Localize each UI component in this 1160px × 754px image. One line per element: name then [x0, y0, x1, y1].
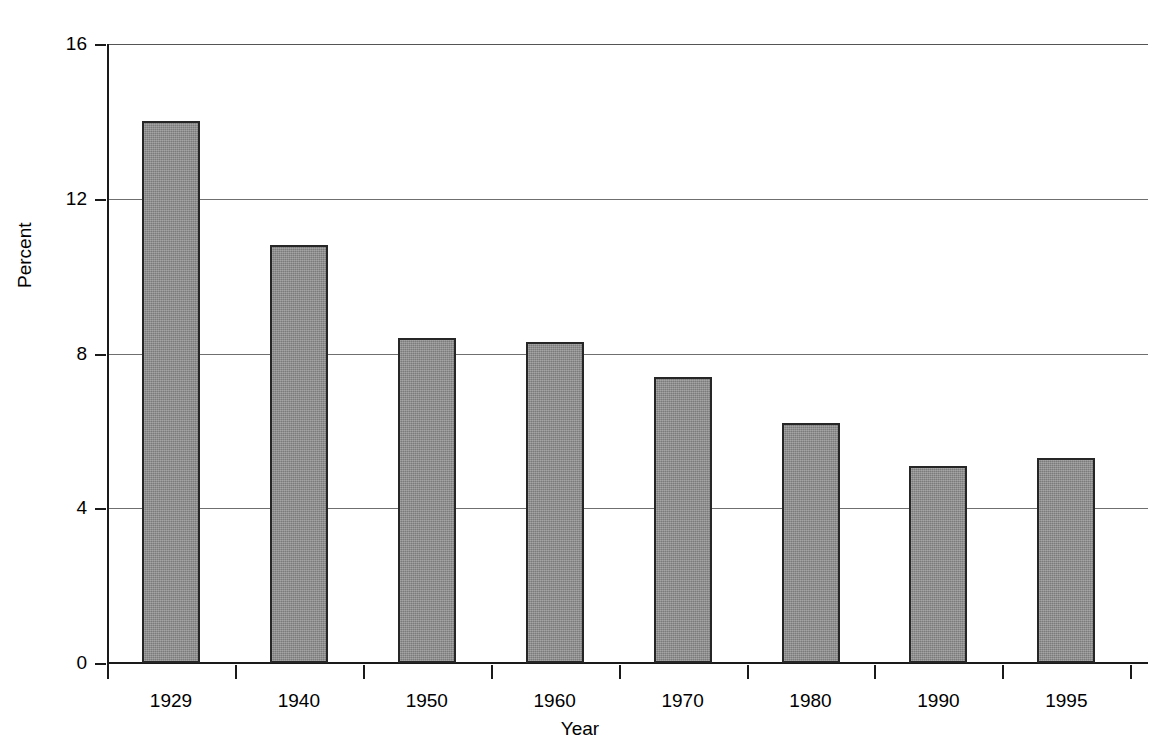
- x-tick-mark: [874, 665, 876, 679]
- y-tick-label: 4: [27, 498, 87, 517]
- bar-1990: [909, 466, 967, 663]
- x-tick-label: 1950: [367, 691, 487, 710]
- y-tick-mark-16: [95, 44, 106, 46]
- bar-1980: [782, 423, 840, 663]
- chart-figure: 0481216 19291940195019601970198019901995…: [0, 0, 1160, 754]
- plot-area: [107, 44, 1145, 663]
- x-tick-mark: [363, 665, 365, 679]
- x-tick-mark: [491, 665, 493, 679]
- y-axis-title: Percent: [14, 223, 36, 288]
- y-tick-mark-4: [95, 508, 106, 510]
- bar-1929: [142, 121, 200, 663]
- y-tick-label: 12: [27, 189, 87, 208]
- x-tick-label: 1960: [495, 691, 615, 710]
- bar-1950: [398, 338, 456, 663]
- y-tick-label: 0: [27, 653, 87, 672]
- bar-1960: [526, 342, 584, 663]
- y-tick-label: 16: [27, 34, 87, 53]
- y-tick-mark-8: [95, 354, 106, 356]
- x-tick-label: 1970: [623, 691, 743, 710]
- x-tick-label: 1940: [239, 691, 359, 710]
- x-tick-mark: [619, 665, 621, 679]
- x-tick-label: 1995: [1006, 691, 1126, 710]
- x-axis-title: Year: [0, 718, 1160, 740]
- x-tick-label: 1990: [878, 691, 998, 710]
- x-tick-mark: [1130, 665, 1132, 679]
- y-tick-mark-0: [95, 663, 106, 665]
- bar-1940: [270, 245, 328, 663]
- y-tick-label: 8: [27, 344, 87, 363]
- x-tick-label: 1980: [751, 691, 871, 710]
- x-tick-mark: [107, 665, 109, 679]
- x-tick-label: 1929: [111, 691, 231, 710]
- x-tick-mark: [235, 665, 237, 679]
- y-tick-mark-12: [95, 199, 106, 201]
- x-tick-mark: [1002, 665, 1004, 679]
- x-tick-mark: [747, 665, 749, 679]
- bar-1970: [654, 377, 712, 663]
- bar-1995: [1037, 458, 1095, 663]
